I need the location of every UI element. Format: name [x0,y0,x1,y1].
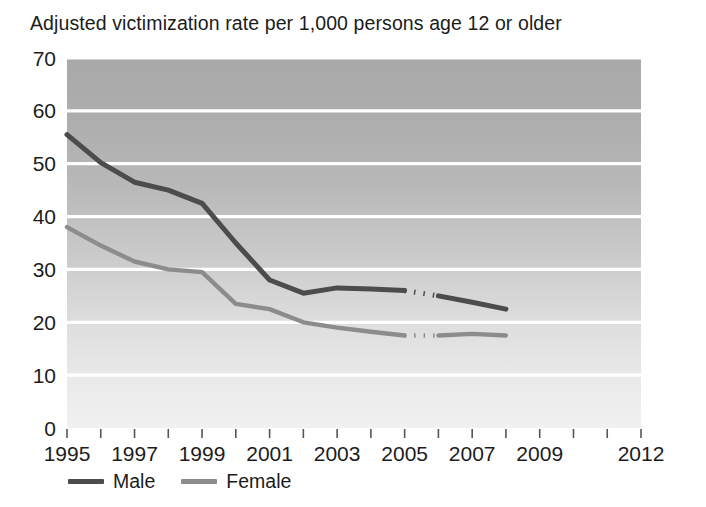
x-axis-tick-labels: 199519971999200120032005200720092012 [44,442,665,465]
y-tick-label: 70 [33,47,56,70]
x-tick-label: 2001 [246,442,293,465]
x-tick-label: 1997 [111,442,158,465]
y-tick-label: 60 [33,99,56,122]
x-tick-label: 2003 [314,442,361,465]
legend-swatch-male [68,479,104,484]
x-axis-ticks [67,429,641,438]
legend-item-male: Male [68,472,155,492]
x-tick-label: 1999 [179,442,226,465]
chart-figure: Adjusted victimization rate per 1,000 pe… [0,0,706,507]
x-tick-label: 2009 [516,442,563,465]
y-tick-label: 40 [33,205,56,228]
y-tick-label: 50 [33,152,56,175]
plot-background [67,58,641,428]
legend-swatch-female [181,479,217,484]
x-tick-label: 1995 [44,442,91,465]
line-chart-plot: 010203040506070 199519971999200120032005… [0,0,706,470]
legend-item-female: Female [181,472,291,492]
y-tick-label: 0 [44,417,56,440]
series-line-female [438,334,506,336]
y-tick-label: 10 [33,364,56,387]
y-tick-label: 30 [33,258,56,281]
chart-legend: Male Female [68,472,291,492]
legend-label-female: Female [226,472,291,492]
x-tick-label: 2005 [381,442,428,465]
x-tick-label: 2007 [449,442,496,465]
y-tick-label: 20 [33,311,56,334]
y-axis-tick-labels: 010203040506070 [33,47,56,440]
legend-label-male: Male [113,472,155,492]
x-tick-label: 2012 [618,442,665,465]
